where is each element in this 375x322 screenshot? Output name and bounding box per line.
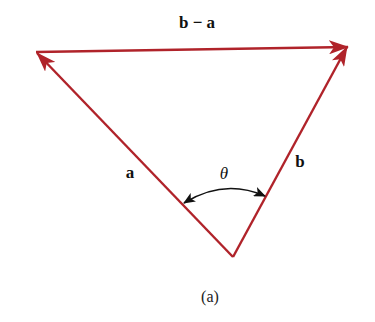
vector-b-arrow bbox=[233, 47, 347, 257]
label-a: a bbox=[126, 163, 135, 182]
figure-caption: (a) bbox=[201, 288, 219, 306]
vector-a-arrow bbox=[37, 53, 233, 257]
vector-triangle-diagram: b − a a b θ (a) bbox=[0, 0, 375, 322]
label-b-minus-a: b − a bbox=[179, 13, 216, 32]
label-theta: θ bbox=[220, 164, 228, 183]
label-b: b bbox=[295, 152, 304, 171]
angle-theta-arc bbox=[184, 188, 265, 203]
vector-b-minus-a-arrow bbox=[36, 47, 348, 52]
